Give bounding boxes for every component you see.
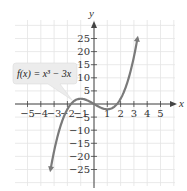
y-axis-label: y xyxy=(88,7,94,19)
y-tick-label: 15 xyxy=(77,59,90,70)
y-tick-label: 10 xyxy=(77,72,90,83)
function-callout: f(x) = x³ − 3x xyxy=(13,63,77,100)
y-tick-label: −20 xyxy=(69,151,90,162)
y-tick-label: 5 xyxy=(84,85,90,96)
y-tick-label: −15 xyxy=(69,138,90,149)
y-tick-label: −25 xyxy=(69,164,90,175)
x-tick-label: 2 xyxy=(117,108,123,119)
x-tick-label: 4 xyxy=(144,108,150,119)
x-tick-label: 3 xyxy=(131,108,137,119)
function-label: f(x) = x³ − 3x xyxy=(17,68,72,80)
x-tick-label: 5 xyxy=(157,108,163,119)
function-graph: x y −5−4−3−2−112345252015105−5−10−15−20−… xyxy=(0,0,187,191)
axes: x y xyxy=(15,7,184,188)
y-tick-label: 20 xyxy=(77,46,90,57)
x-axis-label: x xyxy=(178,97,184,109)
y-tick-label: −5 xyxy=(75,112,90,123)
y-axis-arrow-icon xyxy=(91,21,97,28)
y-tick-label: 25 xyxy=(77,33,90,44)
grid-lines xyxy=(15,20,175,186)
y-tick-label: −10 xyxy=(69,125,90,136)
